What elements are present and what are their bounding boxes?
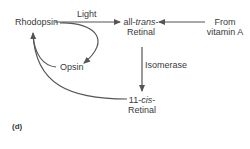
cis-line2: Retinal (128, 105, 156, 115)
edge-label-light: Light (77, 9, 97, 19)
all-trans-line2: Retinal (127, 27, 155, 37)
cis-suffix: - (152, 95, 155, 105)
all-trans-italic: trans (136, 17, 156, 27)
arrow-to-opsin (60, 23, 98, 63)
all-trans-suffix: - (156, 17, 159, 27)
from-line1: From (215, 17, 236, 27)
edge-label-isomerase: Isomerase (145, 60, 187, 70)
arrow-opsin-to-rhodopsin (33, 34, 56, 67)
node-opsin: Opsin (60, 62, 84, 72)
node-11-cis-retinal: 11-cis- Retinal (126, 95, 158, 115)
cis-italic: cis (141, 95, 152, 105)
all-trans-prefix: all- (123, 17, 135, 27)
cis-prefix: 11- (129, 95, 141, 105)
from-line2: vitamin A (207, 27, 244, 37)
node-from-vitamin-a: From vitamin A (206, 17, 244, 37)
node-rhodopsin: Rhodopsin (15, 17, 58, 27)
figure-label: (d) (12, 122, 22, 132)
node-all-trans-retinal: all-trans- Retinal (123, 17, 159, 37)
